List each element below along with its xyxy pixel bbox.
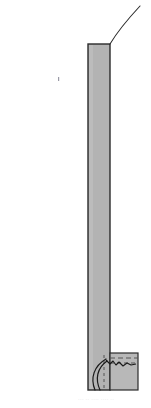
ghost-caption-artifact: ··· ·· ···· ···· ·· xyxy=(78,396,150,402)
structural-drawing-svg xyxy=(0,0,151,408)
scan-speck-artifact xyxy=(58,77,59,81)
column-shading-band xyxy=(89,45,93,389)
deflected-shape-curve xyxy=(110,6,140,44)
figure-root: ··· ·· ···· ···· ·· xyxy=(0,0,151,408)
